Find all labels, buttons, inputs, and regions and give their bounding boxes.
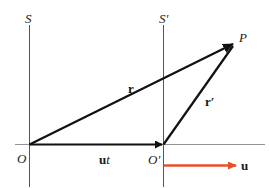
label-origin-o-prime: O′ (148, 153, 160, 166)
label-vector-ut: ut (99, 153, 110, 166)
label-vector-r-prime: r′ (205, 95, 214, 108)
label-ut-t: t (106, 152, 110, 167)
label-s-prime-frame: S′ (159, 12, 168, 25)
label-origin-o: O (17, 152, 26, 165)
label-vector-r: r (128, 82, 134, 95)
label-s-frame: S (25, 12, 32, 25)
label-point-p: P (239, 31, 247, 44)
galilean-transform-diagram (0, 0, 269, 188)
label-velocity-u: u (241, 159, 248, 172)
